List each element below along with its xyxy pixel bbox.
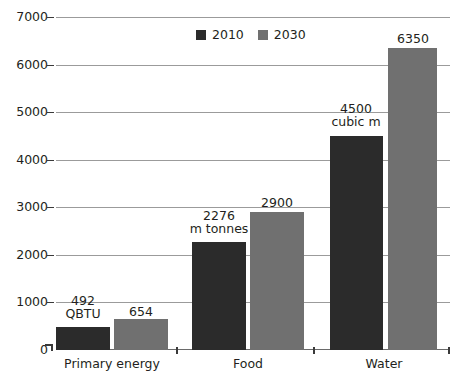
y-axis-label-0: 0 xyxy=(2,344,48,357)
category-label-food: Food xyxy=(233,356,263,371)
y-axis-label-5000: 5000 xyxy=(2,106,48,119)
bar-unit-water: cubic m xyxy=(331,114,380,129)
bar-value-food-2030: 2900 xyxy=(261,196,293,209)
bar-value-water-2030: 6350 xyxy=(397,32,429,45)
legend: 2010 2030 xyxy=(196,29,306,42)
x-tick-group-1 xyxy=(176,347,178,354)
y-tick-6000 xyxy=(47,65,54,66)
bar-chart: 7000 6000 5000 4000 3000 2000 1000 0 492 xyxy=(0,0,458,381)
y-tick-2000 xyxy=(47,255,54,256)
y-axis-label-3000: 3000 xyxy=(2,201,48,214)
y-tick-4000 xyxy=(47,160,54,161)
bar-value-primary-energy-2010: 492 QBTU xyxy=(65,294,100,320)
category-label-water: Water xyxy=(366,356,403,371)
plot-area: 492 QBTU 654 2276 m tonnes 2900 4500 cub… xyxy=(56,17,450,350)
y-axis-label-2000: 2000 xyxy=(2,249,48,262)
bar-value-food-2010: 2276 m tonnes xyxy=(190,209,249,235)
legend-label-2030: 2030 xyxy=(274,29,306,42)
y-axis-label-4000: 4000 xyxy=(2,153,48,166)
y-axis-labels: 7000 6000 5000 4000 3000 2000 1000 0 xyxy=(0,17,48,350)
y-tick-3000 xyxy=(47,207,54,208)
y-tick-5000 xyxy=(47,112,54,113)
legend-item-2030[interactable]: 2030 xyxy=(258,29,306,42)
bar-food-2010 xyxy=(192,242,246,350)
y-axis-label-6000: 6000 xyxy=(2,58,48,71)
x-tick-group-3 xyxy=(448,347,450,354)
bar-value-water-2010: 4500 cubic m xyxy=(331,102,380,128)
category-label-primary-energy: Primary energy xyxy=(64,356,160,371)
legend-label-2010: 2010 xyxy=(212,29,244,42)
legend-item-2010[interactable]: 2010 xyxy=(196,29,244,42)
x-tick-origin-stem xyxy=(51,344,53,351)
bar-unit-primary-energy: QBTU xyxy=(65,306,100,321)
legend-swatch-icon-2030 xyxy=(258,30,268,40)
y-tick-7000 xyxy=(47,17,54,18)
gridline-7000 xyxy=(56,17,450,18)
bar-water-2010 xyxy=(330,136,383,350)
bar-food-2030 xyxy=(250,212,304,350)
y-tick-1000 xyxy=(47,302,54,303)
bar-primary-energy-2030 xyxy=(114,319,168,350)
legend-swatch-icon-2010 xyxy=(196,30,206,40)
bar-primary-energy-2010 xyxy=(56,327,110,350)
y-axis-label-1000: 1000 xyxy=(2,296,48,309)
x-tick-group-2 xyxy=(313,347,315,354)
y-axis-label-7000: 7000 xyxy=(2,11,48,24)
bar-value-primary-energy-2030: 654 xyxy=(129,305,153,318)
bar-water-2030 xyxy=(388,48,437,350)
bar-unit-food: m tonnes xyxy=(190,221,249,236)
